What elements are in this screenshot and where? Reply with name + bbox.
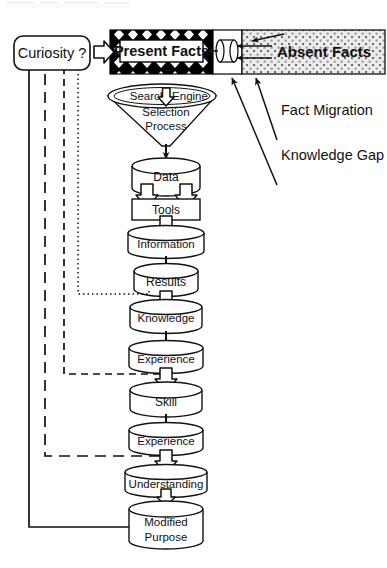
curiosity-label: Curiosity ? (18, 45, 87, 61)
knowledge-gap-label: Knowledge Gap (281, 147, 384, 163)
diagram-canvas: Present Facts Absent Facts Curiosity ? S… (0, 0, 387, 568)
engine-label: Engine (172, 90, 208, 102)
stage-label-tools: Tools (152, 203, 180, 217)
stage-label-skill: Skill (155, 395, 177, 409)
process-label: Process (145, 120, 187, 132)
fact-migration-leader-line (256, 78, 277, 140)
stage-label-experience-2: Experience (137, 435, 195, 447)
stage-label-results: Results (146, 275, 186, 289)
migration-cylinder-icon (216, 40, 238, 62)
stage-label-information: Information (137, 238, 195, 250)
stage-label-knowledge: Knowledge (138, 312, 195, 324)
selection-label: Selection (142, 106, 189, 118)
knowledge-gap-leader-line (232, 78, 277, 185)
fact-migration-label: Fact Migration (281, 102, 373, 118)
stage-label-modified-purpose: Modified (144, 516, 187, 528)
knowledge-flow-diagram: Present Facts Absent Facts Curiosity ? S… (0, 0, 387, 568)
scan-artifact (6, 2, 130, 8)
stage-label-modified-purpose-2: Purpose (145, 531, 188, 543)
present-facts-label: Present Facts (114, 43, 209, 59)
feedback-line-solid (29, 70, 129, 527)
stage-label-experience-1: Experience (137, 353, 195, 365)
stage-label-understanding: Understanding (129, 478, 204, 490)
absent-facts-label: Absent Facts (277, 43, 371, 60)
stage-label-data: Data (153, 170, 179, 184)
